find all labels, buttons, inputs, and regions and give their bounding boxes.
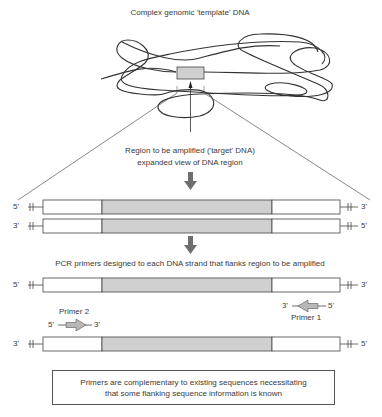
strand-end-label: 5' <box>13 280 19 290</box>
note-line2: that some flanking sequence information … <box>105 388 282 399</box>
primer-2-label: Primer 2 <box>59 307 89 317</box>
genomic-dna-tangle <box>101 34 332 118</box>
primer-2-end-label: 3' <box>94 320 100 330</box>
down-arrow-icon <box>184 236 197 254</box>
primer-1-end-label: 5' <box>328 301 334 311</box>
strand-end-label: 3' <box>361 280 367 290</box>
note-line1: Primers are complementary to existing se… <box>80 377 306 388</box>
primer-1-label: Primer 1 <box>291 313 321 323</box>
target-caption-line1: Region to be amplified ('target' DNA) <box>125 146 255 156</box>
primer-1-end-label: 3' <box>282 301 288 311</box>
pcr-diagram <box>0 0 382 417</box>
diagram-title: Complex genomic 'template' DNA <box>130 8 249 18</box>
primer-caption: PCR primers designed to each DNA strand … <box>55 259 324 269</box>
strand-end-label: 3' <box>13 221 19 231</box>
target-caption-line2: expanded view of DNA region <box>137 158 242 168</box>
strand-end-label: 3' <box>13 339 19 349</box>
strand-end-label: 3' <box>361 202 367 212</box>
primer-2-end-label: 5' <box>48 320 54 330</box>
down-arrow-icon <box>184 172 197 190</box>
strand-end-label: 5' <box>361 221 367 231</box>
primer-1-arrow-icon <box>292 300 326 312</box>
dna-duplex <box>28 200 358 233</box>
strand-end-label: 5' <box>13 202 19 212</box>
target-region-marker <box>177 67 204 79</box>
strand-end-label: 5' <box>361 339 367 349</box>
primer-2-arrow-icon <box>58 319 92 331</box>
note-box: Primers are complementary to existing se… <box>52 370 335 405</box>
